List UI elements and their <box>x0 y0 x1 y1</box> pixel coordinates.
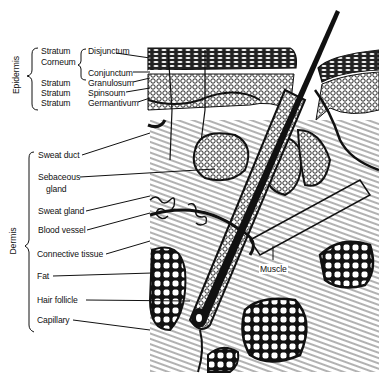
granulosum-label: Granulosum <box>88 78 134 88</box>
sweat-duct-label: Sweat duct <box>38 150 80 160</box>
spinosum-label: Spinsoum <box>88 88 125 98</box>
germinativum-label: Germantivum <box>88 98 138 108</box>
capillary-label: Capillary <box>37 315 70 325</box>
stratum-granulosum-prefix: Stratum <box>41 78 70 88</box>
epidermis-bracket <box>27 48 38 110</box>
fat-lobule-bottom <box>208 348 238 372</box>
disjunctum-label: Disjunctum <box>88 46 130 56</box>
stratum-corneum-left <box>148 48 296 70</box>
hair-follicle-label: Hair follicle <box>37 295 78 305</box>
fat-label: Fat <box>37 271 49 281</box>
fat-lobule-right <box>320 242 373 288</box>
sweat-gland-label: Sweat gland <box>38 206 84 216</box>
stratum-corneum-label-2: Corneum <box>41 57 76 67</box>
epidermis-group-label: Epidermis <box>11 55 21 95</box>
connective-tissue-label: Connective tissue <box>37 249 103 259</box>
blood-vessel-label: Blood vessel <box>38 225 86 235</box>
dermis-group-label: Dermis <box>8 226 18 256</box>
sebaceous-gland-left <box>194 133 249 180</box>
muscle-label: Muscle <box>259 264 288 274</box>
sebaceous-gland-label-2: gland <box>46 184 67 194</box>
sebaceous-gland-label-1: Sebaceous <box>38 172 80 182</box>
stratum-corneum-label-1: Stratum <box>41 46 70 56</box>
corneum-bracket <box>78 49 86 80</box>
stratum-spinosum-prefix: Stratum <box>41 88 70 98</box>
fat-lobule-center <box>242 299 306 362</box>
dermis-bracket <box>25 152 34 332</box>
stratum-germinativum-prefix: Stratum <box>41 98 70 108</box>
conjunctum-label: Conjunctum <box>88 68 133 78</box>
